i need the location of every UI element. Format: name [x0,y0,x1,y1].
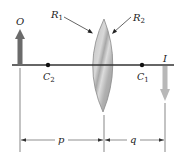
image-distance-label: q [130,134,136,145]
r1-label: R1 [50,9,63,22]
object-label: O [16,16,24,27]
c1-label: C1 [137,71,149,84]
center-of-curvature-1 [140,63,144,67]
image-label: I [162,53,168,64]
lens-diagram: O I R1 R2 C2 C1 p q [0,0,181,163]
object-distance-label: p [58,134,65,145]
r2-label: R2 [132,12,145,25]
c2-label: C2 [43,71,55,84]
r1-pointer [64,17,91,32]
center-of-curvature-2 [46,63,50,67]
image-arrow [160,66,170,101]
object-arrow [15,29,25,65]
r2-pointer [114,17,131,32]
